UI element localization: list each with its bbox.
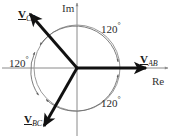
- phasor-subscript-v-bc: BC: [32, 119, 42, 128]
- phasor-subscript-v-ab: AB: [148, 59, 158, 68]
- degree-sign-ca-bc: °: [26, 55, 29, 64]
- phasor-subscript-v-ca: CA: [26, 14, 36, 23]
- angle-label-ab-ca: 120°: [101, 22, 121, 35]
- phasor-symbol-v-ab: V: [140, 54, 148, 65]
- degree-sign-ab-ca: °: [118, 21, 121, 30]
- angle-label-ca-bc: 120°: [9, 56, 29, 69]
- angle-value-ab-ca: 120: [101, 23, 118, 35]
- phasor-v-bc: [44, 68, 77, 126]
- phasor-v-ca: [30, 14, 77, 68]
- angle-value-ca-bc: 120: [9, 57, 26, 69]
- imaginary-axis-label: Im: [62, 3, 74, 14]
- phasor-diagram: Im Re VAB VCA VBC 120° 120° 120°: [0, 0, 177, 138]
- degree-sign-bc-ab: °: [118, 95, 121, 104]
- angle-label-bc-ab: 120°: [101, 96, 121, 109]
- phasor-symbol-v-ca: V: [18, 9, 26, 20]
- angle-value-bc-ab: 120: [101, 97, 118, 109]
- phasor-symbol-v-bc: V: [24, 114, 32, 125]
- real-axis-label: Re: [152, 76, 164, 87]
- phasor-label-v-ca: VCA: [18, 9, 36, 23]
- phasor-label-v-bc: VBC: [24, 114, 42, 128]
- phasor-label-v-ab: VAB: [140, 54, 158, 68]
